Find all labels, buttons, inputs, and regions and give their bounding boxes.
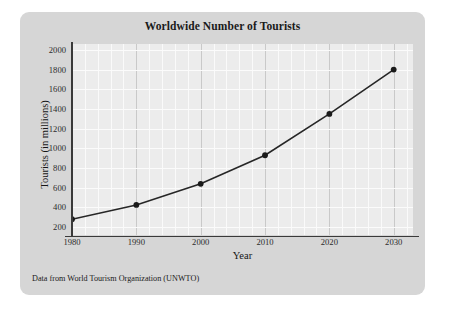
data-point — [326, 111, 332, 117]
chart-source-caption: Data from World Tourism Organization (UN… — [32, 274, 199, 283]
x-tick-label: 1980 — [49, 238, 95, 247]
y-axis-line — [71, 42, 73, 237]
chart-title: Worldwide Number of Tourists — [20, 20, 425, 32]
y-tick-label: 2000 — [20, 46, 66, 55]
x-tick-label: 1990 — [113, 238, 159, 247]
data-point — [198, 181, 204, 187]
series-layer — [72, 44, 413, 235]
chart-figure: Worldwide Number of Tourists 20040060080… — [20, 12, 425, 295]
data-point — [262, 152, 268, 158]
x-axis-title: Year — [72, 250, 413, 261]
plot-area — [72, 44, 413, 235]
x-tick-label: 2020 — [306, 238, 352, 247]
x-tick-label: 2010 — [242, 238, 288, 247]
data-point — [133, 202, 139, 208]
series-markers — [72, 67, 397, 222]
x-tick-label: 2000 — [178, 238, 224, 247]
x-axis-line — [65, 236, 419, 238]
y-axis-title: Tourists (in millions) — [39, 55, 50, 235]
chart-card: Worldwide Number of Tourists 20040060080… — [20, 12, 425, 295]
x-tick-label: 2030 — [371, 238, 417, 247]
data-point — [391, 67, 397, 73]
series-line — [72, 70, 394, 220]
